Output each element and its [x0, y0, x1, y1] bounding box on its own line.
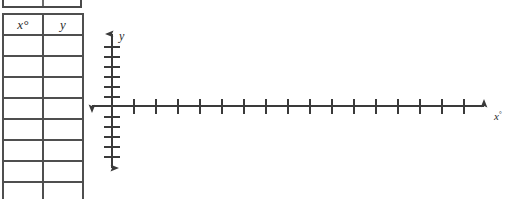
y-axis-label: y: [118, 29, 125, 43]
column-header-y: y: [43, 14, 83, 35]
partial-table-column-divider: [42, 0, 44, 6]
cell-y[interactable]: [43, 77, 83, 98]
cell-y[interactable]: [43, 140, 83, 161]
column-header-x-label: x°: [17, 17, 28, 32]
cell-y[interactable]: [43, 56, 83, 77]
coordinate-axes-figure: y x°: [84, 26, 512, 176]
table-row[interactable]: [3, 77, 83, 98]
cell-x[interactable]: [3, 98, 43, 119]
table-row[interactable]: [3, 140, 83, 161]
partial-table-above: [2, 0, 82, 8]
cell-x[interactable]: [3, 161, 43, 182]
table-row[interactable]: [3, 98, 83, 119]
table-row[interactable]: [3, 35, 83, 56]
svg-text:x°: x°: [493, 110, 502, 122]
column-header-x: x°: [3, 14, 43, 35]
table-row[interactable]: [3, 182, 83, 199]
cell-x[interactable]: [3, 140, 43, 161]
cell-x[interactable]: [3, 182, 43, 199]
cell-x[interactable]: [3, 35, 43, 56]
cell-y[interactable]: [43, 35, 83, 56]
cell-y[interactable]: [43, 161, 83, 182]
value-table-header-row: x° y: [3, 14, 83, 35]
table-row[interactable]: [3, 56, 83, 77]
cell-x[interactable]: [3, 77, 43, 98]
cell-y[interactable]: [43, 119, 83, 140]
cell-x[interactable]: [3, 56, 43, 77]
x-axis-label: x°: [493, 110, 502, 122]
column-header-y-label: y: [60, 17, 66, 32]
cell-y[interactable]: [43, 182, 83, 199]
table-row[interactable]: [3, 119, 83, 140]
x-axis-label-degree: °: [499, 110, 502, 118]
value-table-head: x° y: [3, 14, 83, 35]
worksheet-canvas: x° y: [0, 0, 512, 199]
value-table-body: [3, 35, 83, 199]
cell-y[interactable]: [43, 98, 83, 119]
value-table[interactable]: x° y: [2, 13, 84, 199]
cell-x[interactable]: [3, 119, 43, 140]
table-row[interactable]: [3, 161, 83, 182]
